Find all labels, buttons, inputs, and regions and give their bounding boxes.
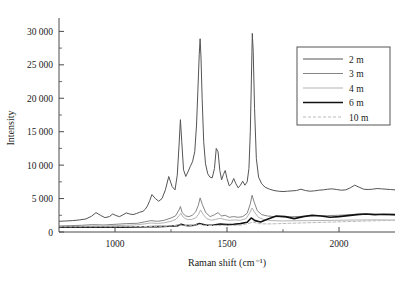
legend-label-4-m: 4 m: [349, 84, 364, 94]
y-tick-label: 5 000: [32, 194, 54, 204]
chart-canvas: 10001500200005 00010 00015 00020 00025 0…: [0, 0, 408, 286]
legend-label-6-m: 6 m: [349, 98, 364, 108]
y-tick-label: 25 000: [27, 60, 53, 70]
legend-label-2-m: 2 m: [349, 55, 364, 65]
legend-label-10-m: 10 m: [349, 113, 369, 123]
x-axis-title: Raman shift (cm⁻¹): [188, 257, 266, 269]
x-tick-label: 1000: [106, 239, 125, 249]
legend-label-3-m: 3 m: [349, 69, 364, 79]
x-tick-label: 2000: [330, 239, 349, 249]
raman-spectra-figure: 10001500200005 00010 00015 00020 00025 0…: [0, 0, 408, 286]
y-tick-label: 20 000: [27, 94, 53, 104]
y-tick-label: 0: [48, 228, 53, 238]
y-tick-label: 10 000: [27, 161, 53, 171]
y-tick-label: 30 000: [27, 27, 53, 37]
y-axis-title: Intensity: [5, 111, 16, 146]
legend: 2 m3 m4 m6 m10 m: [297, 47, 390, 125]
y-tick-label: 15 000: [27, 127, 53, 137]
x-tick-label: 1500: [218, 239, 237, 249]
